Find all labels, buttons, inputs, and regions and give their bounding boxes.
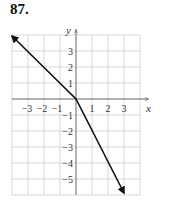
svg-text:−3: −3 xyxy=(22,103,33,114)
svg-text:−1: −1 xyxy=(52,103,63,114)
svg-text:−2: −2 xyxy=(37,103,48,114)
x-tick-labels: −3 −2 −1 1 2 3 xyxy=(22,103,127,114)
y-axis-label: y xyxy=(65,24,71,36)
axes xyxy=(12,30,148,195)
graph: x y −3 −2 −1 1 2 3 3 2 1 −1 −2 −3 −4 −5 xyxy=(0,0,172,203)
x-axis-label: x xyxy=(145,102,151,114)
svg-text:−1: −1 xyxy=(62,110,73,121)
svg-text:−5: −5 xyxy=(62,174,73,185)
svg-text:1: 1 xyxy=(68,78,73,89)
svg-text:1: 1 xyxy=(90,103,95,114)
svg-text:−4: −4 xyxy=(62,158,73,169)
svg-text:3: 3 xyxy=(68,46,73,57)
svg-text:3: 3 xyxy=(122,103,127,114)
svg-text:−3: −3 xyxy=(62,142,73,153)
svg-text:2: 2 xyxy=(68,62,73,73)
svg-text:−2: −2 xyxy=(62,126,73,137)
svg-text:2: 2 xyxy=(106,103,111,114)
